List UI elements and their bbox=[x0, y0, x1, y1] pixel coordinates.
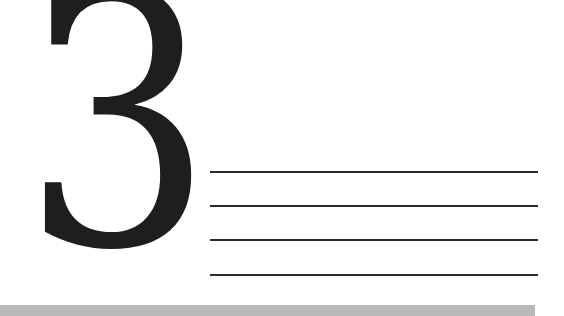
bottom-gray-bar bbox=[0, 305, 535, 316]
writing-line-3 bbox=[210, 239, 538, 241]
writing-line-1 bbox=[210, 171, 538, 173]
big-numeral-three: 3 bbox=[22, 0, 214, 298]
writing-line-4 bbox=[210, 274, 538, 276]
writing-line-2 bbox=[210, 205, 538, 207]
